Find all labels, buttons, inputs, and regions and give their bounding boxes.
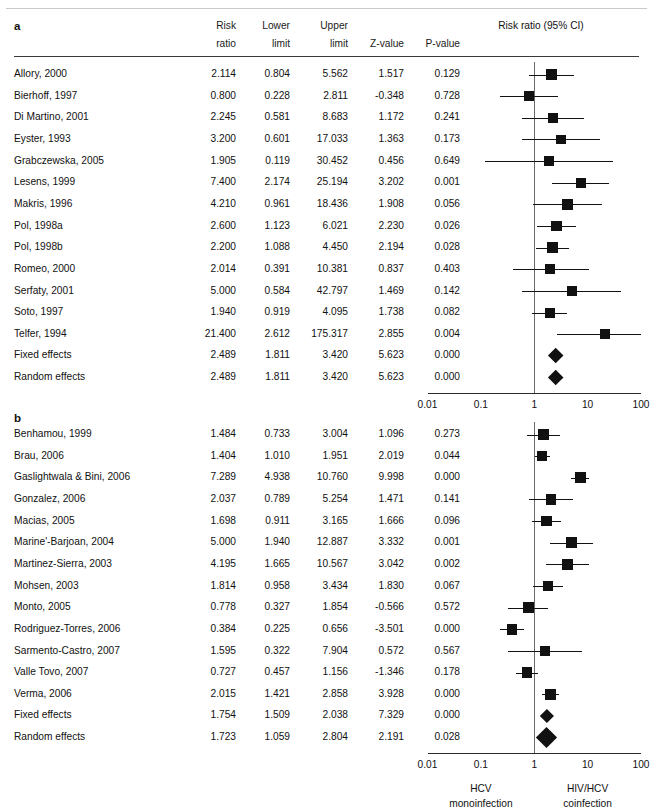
effect-size-marker	[566, 537, 577, 548]
effect-size-marker	[545, 689, 556, 700]
study-label: Brau, 2006	[14, 450, 64, 461]
study-label: Rodriguez-Torres, 2006	[14, 623, 120, 634]
cell-p: 0.001	[410, 536, 460, 547]
cell-upper: 0.656	[292, 623, 348, 634]
cell-z: 3.202	[354, 176, 404, 187]
cell-lower: 2.612	[240, 328, 290, 339]
panel-letter-b: b	[14, 412, 21, 424]
cell-z: 1.517	[354, 68, 404, 79]
cell-upper: 3.434	[292, 580, 348, 591]
cell-upper: 1.156	[292, 666, 348, 677]
cell-upper: 2.858	[292, 688, 348, 699]
cell-rr: 1.940	[186, 306, 236, 317]
cell-rr: 21.400	[186, 328, 236, 339]
cell-upper: 6.021	[292, 220, 348, 231]
effect-size-marker	[546, 494, 557, 505]
cell-p: 0.403	[410, 263, 460, 274]
cell-lower: 0.119	[240, 155, 290, 166]
column-header-upper-line1: Upper	[292, 20, 348, 31]
study-label: Mohsen, 2003	[14, 580, 79, 591]
study-label: Pol, 1998b	[14, 241, 63, 252]
cell-z: 1.738	[354, 306, 404, 317]
cell-z: 9.998	[354, 471, 404, 482]
cell-lower: 0.733	[240, 428, 290, 439]
effect-size-marker	[562, 559, 573, 570]
effect-size-marker	[545, 264, 555, 274]
effect-size-marker	[541, 516, 552, 527]
cell-upper: 2.038	[292, 709, 348, 720]
effect-size-marker	[551, 221, 562, 232]
effect-size-marker	[507, 624, 518, 635]
study-label: Martinez-Sierra, 2003	[14, 558, 112, 569]
cell-upper: 25.194	[292, 176, 348, 187]
cell-lower: 2.174	[240, 176, 290, 187]
study-label: Random effects	[14, 731, 85, 742]
summary-diamond	[536, 727, 557, 748]
cell-rr: 0.727	[186, 666, 236, 677]
column-header-lower-line1: Lower	[240, 20, 290, 31]
cell-z: 1.471	[354, 493, 404, 504]
cell-lower: 4.938	[240, 471, 290, 482]
cell-lower: 0.581	[240, 111, 290, 122]
cell-lower: 0.919	[240, 306, 290, 317]
study-label: Gonzalez, 2006	[14, 493, 85, 504]
cell-lower: 1.421	[240, 688, 290, 699]
cell-rr: 0.800	[186, 90, 236, 101]
cell-lower: 1.811	[240, 371, 290, 382]
cell-lower: 0.958	[240, 580, 290, 591]
cell-p: 0.000	[410, 709, 460, 720]
cell-rr: 3.200	[186, 133, 236, 144]
cell-p: 0.000	[410, 623, 460, 634]
x-axis-line	[428, 393, 642, 394]
study-label: Pol, 1998a	[14, 220, 63, 231]
cell-rr: 2.015	[186, 688, 236, 699]
effect-size-marker	[600, 329, 610, 339]
summary-diamond	[540, 709, 554, 723]
cell-upper: 1.951	[292, 450, 348, 461]
cell-rr: 1.754	[186, 709, 236, 720]
cell-rr: 4.210	[186, 198, 236, 209]
cell-p: 0.004	[410, 328, 460, 339]
cell-rr: 1.404	[186, 450, 236, 461]
cell-z: -0.348	[354, 90, 404, 101]
cell-p: 0.178	[410, 666, 460, 677]
cell-rr: 0.384	[186, 623, 236, 634]
cell-p: 0.067	[410, 580, 460, 591]
cell-lower: 0.225	[240, 623, 290, 634]
cell-p: 0.082	[410, 306, 460, 317]
cell-p: 0.241	[410, 111, 460, 122]
cell-z: 2.191	[354, 731, 404, 742]
study-label: Verma, 2006	[14, 688, 72, 699]
cell-z: -0.566	[354, 601, 404, 612]
effect-size-marker	[544, 156, 554, 166]
column-header-lower-line2: limit	[240, 38, 290, 49]
cell-lower: 0.911	[240, 515, 290, 526]
cell-p: 0.056	[410, 198, 460, 209]
cell-p: 0.567	[410, 645, 460, 656]
cell-upper: 3.420	[292, 371, 348, 382]
cell-lower: 0.601	[240, 133, 290, 144]
study-label: Serfaty, 2001	[14, 285, 74, 296]
cell-upper: 17.033	[292, 133, 348, 144]
effect-size-marker	[548, 113, 558, 123]
confidence-interval-line	[557, 334, 642, 335]
cell-z: -1.346	[354, 666, 404, 677]
cell-z: 1.096	[354, 428, 404, 439]
cell-upper: 4.450	[292, 241, 348, 252]
effect-size-marker	[538, 429, 549, 440]
cell-lower: 1.509	[240, 709, 290, 720]
cell-upper: 8.683	[292, 111, 348, 122]
cell-p: 0.728	[410, 90, 460, 101]
study-label: Benhamou, 1999	[14, 428, 92, 439]
cell-rr: 7.289	[186, 471, 236, 482]
cell-p: 0.000	[410, 371, 460, 382]
cell-z: 2.230	[354, 220, 404, 231]
effect-size-marker	[524, 91, 534, 101]
cell-rr: 2.200	[186, 241, 236, 252]
cell-rr: 2.600	[186, 220, 236, 231]
cell-upper: 3.165	[292, 515, 348, 526]
x-axis-tick-0.01: 0.01	[408, 399, 448, 410]
x-axis-tick-1: 1	[514, 399, 554, 410]
cell-lower: 1.811	[240, 349, 290, 360]
null-effect-line	[534, 422, 535, 753]
